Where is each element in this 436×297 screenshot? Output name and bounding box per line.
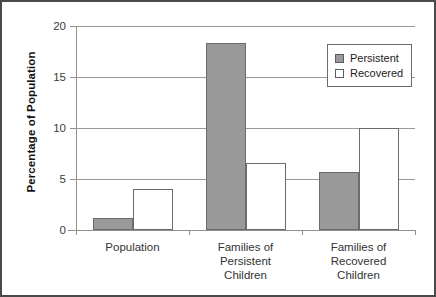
bar-persistent-group-3 (319, 172, 359, 230)
legend-label-recovered: Recovered (350, 67, 403, 79)
bar-recovered-group-3 (359, 128, 399, 230)
chart-legend: PersistentRecovered (327, 44, 412, 87)
x-axis-tick (76, 230, 77, 235)
bar-recovered-group-1 (133, 189, 173, 230)
legend-item-recovered: Recovered (335, 66, 403, 80)
legend-swatch-persistent (335, 54, 344, 63)
x-axis-tick (189, 230, 190, 235)
legend-label-persistent: Persistent (350, 52, 399, 64)
x-axis-tick-label: Families of Persistent Children (189, 240, 302, 282)
bar-persistent-group-1 (93, 218, 133, 230)
x-axis-line (68, 230, 415, 231)
x-axis-tick (302, 230, 303, 235)
y-axis-title-text: Percentage of Population (25, 51, 37, 192)
gridline (76, 26, 415, 27)
x-axis-tick (415, 230, 416, 235)
y-axis-tick-label: 15 (40, 71, 66, 83)
chart-figure: Percentage of Population 05101520 Popula… (0, 0, 436, 297)
y-axis-tick-label: 20 (40, 20, 66, 32)
x-axis-tick-label: Population (76, 240, 189, 254)
y-axis-tick-label: 10 (40, 122, 66, 134)
legend-swatch-recovered (335, 69, 344, 78)
y-axis-tick-label: 5 (40, 173, 66, 185)
y-axis-tick-label: 0 (40, 224, 66, 236)
bar-recovered-group-2 (246, 163, 286, 230)
x-axis-tick-label: Families of Recovered Children (302, 240, 415, 282)
bar-persistent-group-2 (206, 43, 246, 230)
legend-item-persistent: Persistent (335, 51, 403, 65)
